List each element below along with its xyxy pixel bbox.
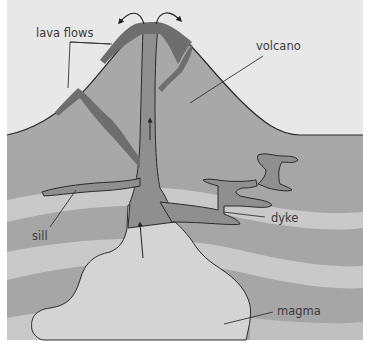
label-magma: magma [277,304,321,318]
label-dyke: dyke [271,211,298,225]
label-volcano: volcano [256,39,301,53]
volcano-diagram: lava flows volcano sill dyke magma [0,0,371,348]
label-lava-flows: lava flows [36,26,93,40]
label-sill: sill [32,229,48,243]
